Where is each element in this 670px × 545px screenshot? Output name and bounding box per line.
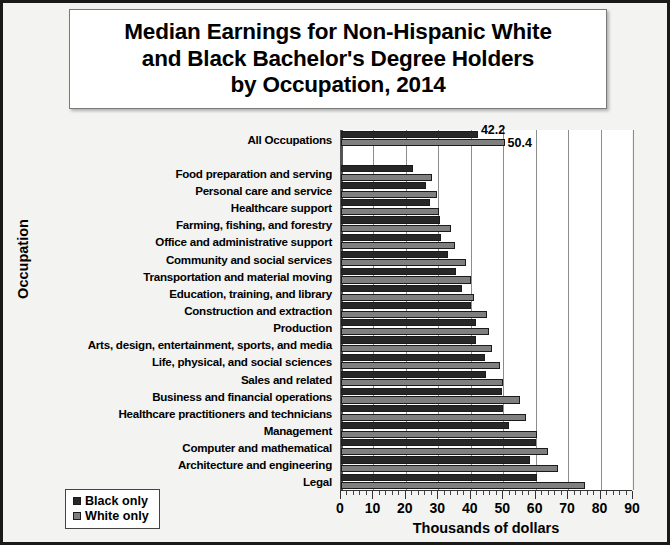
x-tick (587, 491, 588, 495)
x-tick (398, 491, 399, 495)
category-label: All Occupations (247, 132, 332, 145)
x-tick (431, 491, 432, 495)
bar-group (341, 199, 632, 216)
chart-figure: Median Earnings for Non-Hispanic White a… (0, 0, 670, 545)
x-tick (548, 491, 549, 495)
x-tick (418, 491, 419, 495)
bar-black-only (341, 234, 441, 241)
x-tick-label: 80 (592, 500, 608, 516)
x-tick (385, 491, 386, 495)
category-label: Healthcare support (231, 201, 332, 214)
x-tick (522, 491, 523, 495)
x-tick (496, 491, 497, 495)
bar-white-only (341, 345, 492, 352)
category-label: Transportation and material moving (143, 269, 332, 282)
x-tick (561, 491, 562, 495)
bar-group (341, 181, 632, 198)
y-axis-title-text: Occupation (15, 219, 31, 299)
category-label: Management (264, 424, 332, 437)
plot-area-wrapper: 42.250.4 (340, 130, 632, 490)
bar-group (341, 319, 632, 336)
x-tick-label: 10 (365, 500, 381, 516)
legend-item[interactable]: Black only (73, 493, 149, 509)
bar-white-only (341, 431, 537, 438)
bar-black-only (341, 165, 413, 172)
category-label: Arts, design, entertainment, sports, and… (88, 338, 332, 351)
x-tick (483, 491, 484, 495)
x-tick (535, 491, 536, 499)
bar-white-only: 50.4 (341, 139, 505, 146)
bar-rows: 42.250.4 (341, 130, 632, 490)
bar-black-only (341, 456, 530, 463)
category-label: Healthcare practitioners and technicians (118, 406, 332, 419)
bar-group (341, 336, 632, 353)
bar-black-only (341, 251, 448, 258)
plot-area: 42.250.4 (340, 130, 632, 490)
bar-black-only (341, 371, 486, 378)
bar-value-label: 42.2 (481, 123, 505, 137)
bar-group (341, 421, 632, 438)
category-label: Food preparation and serving (175, 166, 332, 179)
bar-group (341, 439, 632, 456)
x-tick-label: 40 (462, 500, 478, 516)
legend-swatch-icon (73, 512, 81, 520)
x-tick (567, 491, 568, 499)
legend-label: White only (85, 510, 149, 523)
bar-group (341, 284, 632, 301)
chart-title-box: Median Earnings for Non-Hispanic White a… (69, 9, 607, 109)
x-tick (463, 491, 464, 495)
x-tick-label: 20 (397, 500, 413, 516)
page-title: Median Earnings for Non-Hispanic White a… (118, 19, 557, 99)
bar-group (341, 216, 632, 233)
bar-group (341, 164, 632, 181)
bar-white-only (341, 311, 487, 318)
x-tick (346, 491, 347, 495)
bar-white-only (341, 379, 503, 386)
bar-white-only (341, 191, 437, 198)
x-tick (437, 491, 438, 499)
x-tick (444, 491, 445, 495)
bar-black-only (341, 216, 440, 223)
x-tick (509, 491, 510, 495)
x-axis-title: Thousands of dollars (340, 520, 632, 536)
x-tick (366, 491, 367, 495)
x-axis-tick-labels: 0102030405060708090 (340, 500, 632, 518)
x-tick (405, 491, 406, 499)
bar-white-only (341, 482, 585, 489)
gridline-90 (633, 130, 634, 490)
bar-white-only (341, 414, 526, 421)
legend-label: Black only (85, 495, 148, 508)
category-label: Sales and related (241, 372, 332, 385)
category-label: Office and administrative support (155, 235, 332, 248)
bar-black-only (341, 388, 502, 395)
legend-swatch-icon (73, 497, 81, 505)
y-axis-tick-labels: All OccupationsFood preparation and serv… (33, 130, 336, 490)
category-label: Community and social services (166, 252, 332, 265)
x-tick (593, 491, 594, 495)
chart-legend[interactable]: Black onlyWhite only (65, 489, 160, 529)
x-tick-label: 70 (559, 500, 575, 516)
bar-group (341, 456, 632, 473)
x-tick (626, 491, 627, 495)
x-tick (600, 491, 601, 499)
bar-white-only (341, 328, 489, 335)
bar-white-only (341, 294, 474, 301)
bar-group-spacer (341, 147, 632, 164)
x-tick (580, 491, 581, 495)
x-tick (613, 491, 614, 495)
bar-white-only (341, 225, 451, 232)
x-axis (340, 490, 632, 499)
x-tick (457, 491, 458, 495)
bar-white-only (341, 448, 548, 455)
bar-white-only (341, 242, 455, 249)
bar-group (341, 370, 632, 387)
bar-black-only: 42.2 (341, 131, 478, 138)
category-label: Production (273, 321, 332, 334)
category-label: Architecture and engineering (178, 458, 332, 471)
bar-black-only (341, 302, 471, 309)
bar-black-only (341, 474, 537, 481)
legend-item[interactable]: White only (73, 509, 149, 525)
x-tick (340, 491, 341, 499)
bar-group (341, 353, 632, 370)
bar-group (341, 387, 632, 404)
